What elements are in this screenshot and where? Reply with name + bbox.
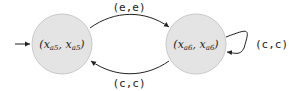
- state-diagram: (xa5, xa5) (xa6, xa6) (e,e) (c,c) (c,c): [0, 0, 289, 91]
- edge-label-bottom: (c,c): [112, 77, 145, 90]
- edge-a5-to-a6: [90, 14, 169, 28]
- edge-a6-self-loop: [226, 31, 247, 53]
- edge-label-top: (e,e): [112, 1, 145, 14]
- edge-a6-to-a5: [91, 61, 169, 74]
- edge-label-loop: (c,c): [255, 38, 288, 51]
